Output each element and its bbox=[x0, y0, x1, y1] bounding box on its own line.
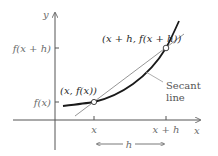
point-xh-fxh bbox=[163, 45, 169, 51]
x-tick-label-x: x bbox=[91, 124, 97, 135]
secant-diagram: y x f(x + h) f(x) x x + h (x, f(x)) (x +… bbox=[0, 0, 218, 156]
y-tick-label-fxh: f(x + h) bbox=[12, 43, 51, 54]
x-tick-label-xh: x + h bbox=[153, 124, 180, 135]
secant-label-line2: line bbox=[166, 92, 185, 103]
x-axis-label: x bbox=[194, 125, 200, 136]
secant-leader bbox=[146, 72, 163, 82]
point-label-x-fx: (x, f(x)) bbox=[60, 85, 97, 96]
point-x-fx bbox=[91, 99, 96, 104]
point-label-xh-fxh: (x + h, f(x + h)) bbox=[102, 33, 181, 44]
y-axis-label: y bbox=[42, 9, 49, 20]
secant-label-line1: Secant bbox=[166, 80, 201, 91]
y-tick-label-fx: f(x) bbox=[33, 97, 51, 108]
h-label: h bbox=[126, 139, 132, 150]
